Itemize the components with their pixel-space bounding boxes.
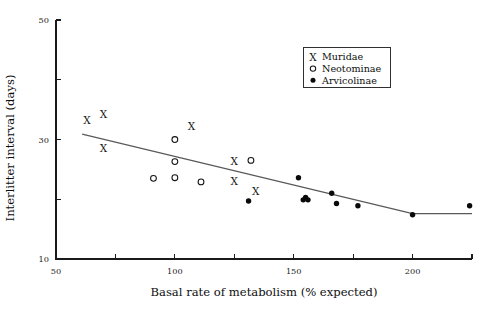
- data-point-arvicolinae: [467, 203, 472, 208]
- y-tick-label: 10: [39, 254, 49, 264]
- axes: [56, 20, 472, 259]
- data-point-arvicolinae: [355, 203, 360, 208]
- data-point-arvicolinae: [246, 198, 251, 203]
- data-point-muridae: X: [252, 185, 260, 197]
- data-point-muridae: X: [100, 142, 108, 154]
- y-tick-label: 50: [39, 15, 49, 25]
- data-point-arvicolinae: [334, 201, 339, 206]
- legend-marker-filled-circle: [311, 78, 316, 83]
- data-point-muridae: X: [188, 120, 196, 132]
- scatter-plot: 50100150200 103050 XXXXXXX XMuridaeNeoto…: [0, 0, 483, 311]
- data-point-arvicolinae: [410, 212, 415, 217]
- data-point-neotominae: [172, 175, 178, 181]
- legend[interactable]: XMuridaeNeotominaeArvicolinae: [303, 47, 390, 87]
- figure-container: 50100150200 103050 XXXXXXX XMuridaeNeoto…: [0, 0, 483, 311]
- axis-ticks: [56, 20, 472, 259]
- legend-marker-x: X: [309, 51, 317, 63]
- fit-line: [82, 134, 472, 213]
- legend-entry-label[interactable]: Arvicolinae: [321, 75, 377, 86]
- axis-spine: [56, 20, 472, 259]
- data-point-neotominae: [172, 137, 178, 143]
- x-tick-label: 100: [167, 266, 183, 276]
- x-tick-label: 200: [405, 266, 421, 276]
- data-point-muridae: X: [231, 155, 239, 167]
- data-point-neotominae: [172, 159, 178, 165]
- data-point-arvicolinae: [305, 197, 310, 202]
- data-point-muridae: X: [83, 114, 91, 126]
- data-point-arvicolinae: [329, 191, 334, 196]
- data-points: XXXXXXX: [83, 108, 472, 218]
- data-point-neotominae: [198, 179, 204, 185]
- y-axis-tick-labels: 103050: [39, 15, 49, 264]
- data-point-muridae: X: [231, 175, 239, 187]
- data-point-neotominae: [151, 175, 157, 181]
- y-axis-title: Interlitter interval (days): [3, 75, 17, 222]
- y-tick-label: 30: [39, 135, 49, 145]
- data-point-muridae: X: [100, 108, 108, 120]
- x-tick-label: 150: [286, 266, 302, 276]
- x-axis-tick-labels: 50100150200: [51, 266, 421, 276]
- data-point-arvicolinae: [296, 175, 301, 180]
- x-axis-title: Basal rate of metabolism (% expected): [150, 285, 377, 299]
- legend-entry-label[interactable]: Neotominae: [322, 63, 382, 74]
- data-point-neotominae: [248, 158, 254, 164]
- x-tick-label: 50: [51, 266, 61, 276]
- legend-entry-label[interactable]: Muridae: [322, 51, 364, 62]
